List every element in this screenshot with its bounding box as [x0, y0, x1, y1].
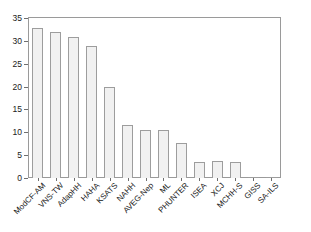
- bar-slot: [137, 18, 155, 178]
- x-axis-tick: [92, 178, 93, 181]
- bar: [86, 46, 97, 178]
- y-axis-tick-label: 35: [2, 13, 22, 23]
- x-axis-tick: [146, 178, 147, 181]
- y-axis-tick-label: 5: [2, 150, 22, 160]
- x-axis-tick: [110, 178, 111, 181]
- y-axis-tick: [24, 64, 28, 65]
- x-axis-tick: [56, 178, 57, 181]
- y-axis-tick-label: 10: [2, 127, 22, 137]
- y-axis-tick: [24, 155, 28, 156]
- x-axis-tick: [217, 178, 218, 181]
- bar-slot: [83, 18, 101, 178]
- bar: [50, 32, 61, 178]
- bar: [32, 28, 43, 178]
- x-axis-tick: [163, 178, 164, 181]
- y-axis-tick-label: 25: [2, 59, 22, 69]
- x-axis-tick: [128, 178, 129, 181]
- bar: [104, 87, 115, 178]
- y-axis-tick: [24, 41, 28, 42]
- x-axis-tick: [199, 178, 200, 181]
- y-axis-tick: [24, 109, 28, 110]
- bar-slot: [244, 18, 262, 178]
- y-axis-tick-label: 30: [2, 36, 22, 46]
- x-axis-tick: [235, 178, 236, 181]
- y-axis-tick-label: 15: [2, 104, 22, 114]
- x-axis-tick: [271, 178, 272, 181]
- y-axis-tick: [24, 87, 28, 88]
- x-axis-tick: [38, 178, 39, 181]
- bar-slot: [155, 18, 173, 178]
- bar-slot: [190, 18, 208, 178]
- bar-slot: [119, 18, 137, 178]
- y-axis-tick-label: 20: [2, 82, 22, 92]
- bar-slot: [47, 18, 65, 178]
- x-axis-tick: [253, 178, 254, 181]
- y-axis-tick: [24, 178, 28, 179]
- y-axis-tick-label: 0: [2, 173, 22, 183]
- bar-slot: [226, 18, 244, 178]
- x-axis-tick: [74, 178, 75, 181]
- x-axis-tick: [181, 178, 182, 181]
- bar-slot: [101, 18, 119, 178]
- y-axis-tick: [24, 18, 28, 19]
- bar-slot: [29, 18, 47, 178]
- bar-slot: [262, 18, 280, 178]
- bar-chart: 05101520253035 ModCF-AMVNS-TWAdapHHHAHAK…: [0, 0, 311, 232]
- y-axis-tick: [24, 132, 28, 133]
